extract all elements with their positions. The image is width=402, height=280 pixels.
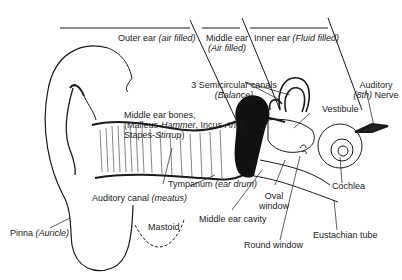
label-eustachian-tube: Eustachian tube: [313, 230, 378, 240]
label-outer-ear: Outer ear (air filled): [118, 33, 196, 43]
label-text: Auditory canal: [92, 193, 152, 203]
vestibule-shape: [268, 119, 314, 152]
label-text: Pinna: [10, 228, 36, 238]
label-text: Auditory: [352, 80, 400, 90]
cochlea-inner: [338, 146, 348, 156]
label-middle-ear-cavity: Middle ear cavity: [199, 214, 267, 224]
label-text: Stapes-: [124, 130, 155, 140]
label-note: Anvil: [225, 120, 245, 130]
label-note: (Fluid filled): [293, 33, 340, 43]
label-note: (8th): [353, 90, 372, 100]
auditory-nerve-shape: [355, 124, 388, 132]
label-note: (meatus): [152, 193, 188, 203]
label-note: (ear drum): [215, 179, 257, 189]
cochlea-mid: [331, 139, 353, 161]
label-pinna: Pinna (Auricle): [10, 228, 69, 238]
helix-fold: [66, 88, 75, 175]
label-oval-window: Oval window: [256, 191, 292, 211]
label-note: Stirrup: [155, 130, 182, 140]
label-text: ,: [245, 120, 248, 130]
label-text: Nerve: [372, 90, 399, 100]
label-mastoid: Mastoid: [148, 222, 180, 232]
label-middle-ear: Middle ear (Air filled): [204, 33, 250, 53]
label-text: Outer ear: [118, 33, 159, 43]
label-text: window: [256, 201, 292, 211]
label-text: Inner ear: [254, 33, 293, 43]
label-note: Hammer: [161, 120, 196, 130]
label-vestibule: Vestibule: [322, 104, 359, 114]
label-note: (air filled): [159, 33, 196, 43]
label-auditory-nerve: Auditory (8th) Nerve: [352, 80, 400, 100]
label-middle-ear-bones: Middle ear bones, (Malleus-Hammer, Incus…: [124, 110, 247, 140]
label-text: , Incus-: [196, 120, 226, 130]
label-text: Tympanum: [168, 179, 215, 189]
label-note: (Balance): [215, 90, 254, 100]
label-text: ): [182, 130, 185, 140]
label-round-window: Round window: [244, 240, 303, 250]
label-text: Middle ear: [204, 33, 250, 43]
eustachian-tube-upper: [260, 160, 330, 185]
label-text: Middle ear bones,: [124, 110, 247, 120]
label-semicircular-canals: 3 Semicircular canals (Balance): [184, 80, 284, 100]
label-note: (Auricle): [36, 228, 70, 238]
label-note: (Air filled): [208, 43, 246, 53]
label-auditory-canal: Auditory canal (meatus): [92, 193, 187, 203]
label-cochlea: Cochlea: [332, 181, 365, 191]
label-text: Oval: [256, 191, 292, 201]
label-inner-ear: Inner ear (Fluid filled): [254, 33, 339, 43]
label-tympanum: Tympanum (ear drum): [168, 179, 257, 189]
label-text: 3 Semicircular canals: [184, 80, 284, 90]
semicircular-canal-2: [285, 88, 305, 112]
label-text: (Malleus-: [124, 120, 161, 130]
